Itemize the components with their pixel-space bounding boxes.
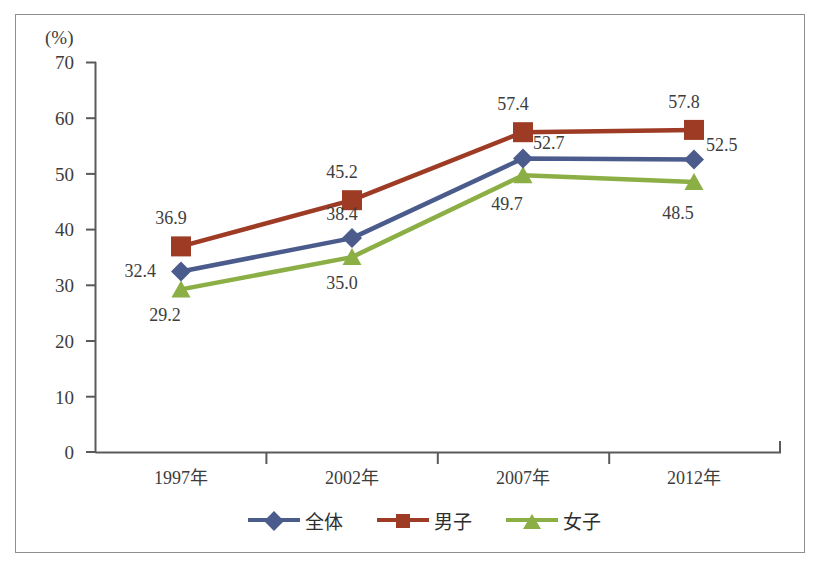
x-tick-label-1997: 1997年 xyxy=(131,469,231,487)
legend-item-joshi[interactable]: 女子 xyxy=(506,507,601,534)
y-tick-label-30: 30 xyxy=(28,276,74,295)
legend-swatch-joshi xyxy=(506,510,558,530)
chart-figure: (%) 70 60 50 40 30 20 10 0 1997年 2002年 2… xyxy=(0,0,821,569)
data-label-joshi-1997: 29.2 xyxy=(135,306,195,324)
data-point-zentai-1997 xyxy=(171,262,191,282)
data-label-danshi-2007: 57.4 xyxy=(483,95,543,113)
y-tick-label-50: 50 xyxy=(28,165,74,184)
legend-label-joshi: 女子 xyxy=(563,507,601,534)
series-joshi xyxy=(172,166,704,297)
y-tick-label-10: 10 xyxy=(28,388,74,407)
legend-swatch-danshi xyxy=(377,510,429,530)
legend-item-zentai[interactable]: 全体 xyxy=(248,507,343,534)
data-point-danshi-2012 xyxy=(684,120,704,140)
square-marker-icon xyxy=(396,514,410,528)
data-label-zentai-1997: 32.4 xyxy=(96,262,156,280)
data-label-danshi-1997: 36.9 xyxy=(141,209,201,227)
data-point-zentai-2002 xyxy=(342,228,362,248)
triangle-marker-icon xyxy=(523,514,541,529)
legend-label-zentai: 全体 xyxy=(305,507,343,534)
legend-item-danshi[interactable]: 男子 xyxy=(377,507,472,534)
data-point-danshi-1997 xyxy=(171,236,191,256)
y-tick-label-40: 40 xyxy=(28,220,74,239)
y-axis xyxy=(86,62,96,452)
data-label-joshi-2012: 48.5 xyxy=(648,204,708,222)
data-point-zentai-2007 xyxy=(513,148,533,168)
legend-swatch-zentai xyxy=(248,510,300,530)
diamond-marker-icon xyxy=(264,511,284,531)
y-tick-label-0: 0 xyxy=(28,443,74,462)
data-label-danshi-2012: 57.8 xyxy=(654,93,714,111)
y-tick-label-20: 20 xyxy=(28,332,74,351)
series-danshi xyxy=(171,120,704,257)
y-tick-label-60: 60 xyxy=(28,109,74,128)
x-tick-label-2012: 2012年 xyxy=(644,469,744,487)
data-label-joshi-2002: 35.0 xyxy=(312,274,372,292)
y-tick-label-70: 70 xyxy=(28,53,74,72)
chart-legend: 全体 男子 女子 xyxy=(248,505,601,535)
data-label-zentai-2002: 38.4 xyxy=(312,205,372,223)
data-label-zentai-2012: 52.5 xyxy=(706,136,766,154)
data-label-joshi-2007: 49.7 xyxy=(477,195,537,213)
x-axis xyxy=(96,441,782,464)
y-axis-unit-label: (%) xyxy=(45,27,73,49)
data-label-danshi-2002: 45.2 xyxy=(312,163,372,181)
legend-label-danshi: 男子 xyxy=(434,507,472,534)
data-label-zentai-2007: 52.7 xyxy=(533,134,593,152)
data-point-zentai-2012 xyxy=(684,150,704,170)
x-tick-label-2007: 2007年 xyxy=(473,469,573,487)
data-point-danshi-2007 xyxy=(513,122,533,142)
x-tick-label-2002: 2002年 xyxy=(302,469,402,487)
